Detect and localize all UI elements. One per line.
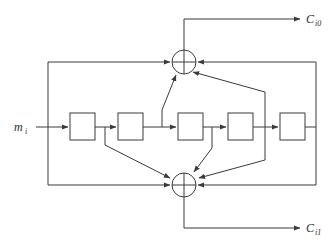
tap-after-register-2 xyxy=(162,75,176,127)
modulo-2-adder-top xyxy=(172,50,196,74)
output-ci1-label-subscript: i1 xyxy=(315,228,321,237)
label-output-ci1: C i1 xyxy=(306,221,321,237)
encoder-diagram: m i C i0 C i1 xyxy=(0,0,333,249)
shift-register-1 xyxy=(70,113,95,140)
wire-tap4-diagonal-to-top-adder xyxy=(193,72,265,92)
wire-tap3-diagonal-to-bottom-adder xyxy=(194,148,212,172)
input-label-subscript: i xyxy=(25,127,27,136)
shift-register-2 xyxy=(118,113,143,140)
label-message-input: m i xyxy=(14,120,27,136)
shift-register-4 xyxy=(228,113,253,140)
wire-tap1-diagonal-to-bottom-adder xyxy=(105,145,170,178)
output-ci1-label-base: C xyxy=(306,221,315,235)
output-ci0-label-subscript: i0 xyxy=(315,19,321,28)
modulo-2-adder-bottom xyxy=(172,173,196,197)
input-bus-left xyxy=(48,62,170,185)
label-output-ci0: C i0 xyxy=(306,12,321,28)
output-path-ci1 xyxy=(184,197,300,228)
wire-tap2-diagonal-to-top-adder xyxy=(162,75,176,110)
output-path-ci0 xyxy=(184,19,300,50)
shift-register-5 xyxy=(280,113,305,140)
wire-tap4-diagonal-to-bottom-adder xyxy=(199,160,265,178)
encoder-schematic: m i C i0 C i1 xyxy=(0,0,333,249)
input-label-base: m xyxy=(14,120,23,134)
output-ci0-label-base: C xyxy=(306,12,315,26)
shift-register-3 xyxy=(178,113,203,140)
